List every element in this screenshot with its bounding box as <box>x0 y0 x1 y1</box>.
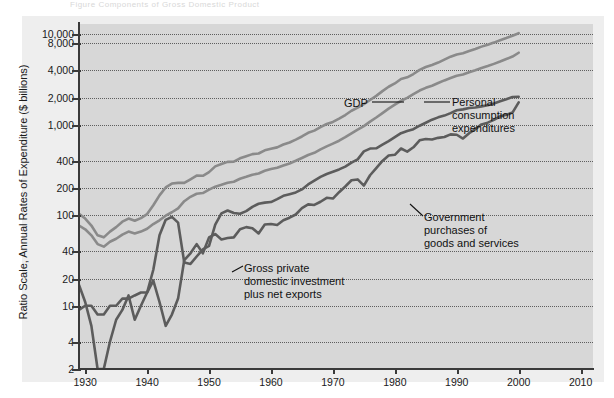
leader-investment <box>232 266 243 272</box>
leader-government <box>410 204 423 216</box>
chart-figure: Figure Components of Gross Domestic Prod… <box>0 0 614 398</box>
annotation-leader-lines <box>0 0 614 398</box>
